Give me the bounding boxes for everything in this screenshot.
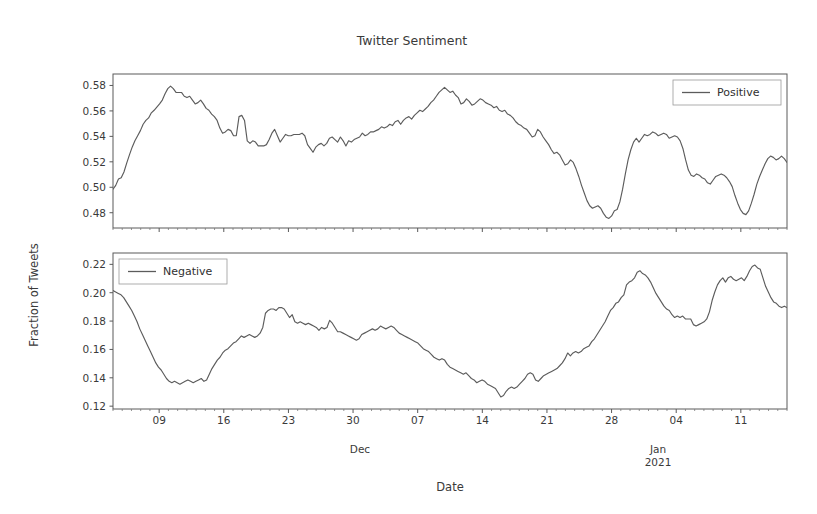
x-tick-label: 14: [476, 414, 490, 426]
y-tick-label: 0.48: [83, 207, 106, 219]
x-tick-label: 30: [346, 414, 359, 426]
legend-negative: Negative: [119, 259, 227, 284]
y-tick-label: 0.58: [83, 79, 106, 91]
y-tick-label: 0.54: [83, 130, 107, 142]
y-tick-label: 0.22: [83, 258, 106, 270]
legend-label-positive: Positive: [717, 86, 760, 99]
x-tick-label: 28: [605, 414, 618, 426]
chart-title: Twitter Sentiment: [356, 33, 468, 48]
x-tick-label: 04: [670, 414, 684, 426]
y-tick-label: 0.16: [83, 343, 107, 355]
y-tick-label: 0.56: [83, 105, 107, 117]
legend-label-negative: Negative: [163, 265, 213, 278]
x-tick-label: 09: [152, 414, 165, 426]
y-tick-label: 0.18: [83, 315, 106, 327]
x-minor-label-dec: Dec: [350, 443, 371, 455]
y-tick-label: 0.50: [83, 181, 106, 193]
x-minor-label-year: 2021: [645, 456, 672, 468]
x-minor-label-jan: Jan: [649, 443, 666, 455]
y-tick-label: 0.12: [83, 400, 106, 412]
x-tick-label: 07: [411, 414, 424, 426]
y-tick-label: 0.14: [83, 372, 107, 384]
x-tick-label: 16: [217, 414, 231, 426]
x-tick-label: 21: [540, 414, 553, 426]
figure-background: [0, 0, 817, 514]
y-axis-label: Fraction of Tweets: [27, 243, 41, 346]
twitter-sentiment-chart: Twitter Sentiment Fraction of Tweets Dat…: [0, 0, 817, 514]
x-tick-label: 11: [734, 414, 747, 426]
chart-figure: Twitter Sentiment Fraction of Tweets Dat…: [0, 0, 817, 514]
y-tick-label: 0.52: [83, 156, 106, 168]
legend-positive: Positive: [673, 80, 781, 105]
x-axis-label: Date: [436, 480, 464, 494]
x-tick-label: 23: [282, 414, 295, 426]
y-tick-label: 0.20: [83, 287, 106, 299]
